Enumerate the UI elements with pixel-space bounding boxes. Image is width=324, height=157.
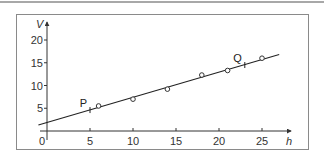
y-axis-label: V	[36, 18, 45, 30]
data-point-circle-marker	[165, 87, 170, 92]
point-label-p: P	[80, 97, 87, 109]
x-tick-label: 20	[213, 135, 225, 147]
data-point-circle-marker	[200, 73, 205, 78]
data-point-circle-marker	[260, 56, 265, 61]
point-annotations: PQ	[80, 52, 245, 113]
fit-line	[38, 55, 279, 126]
x-tick-label: 15	[170, 135, 182, 147]
scatter-chart: 5101520255101520 PQ h V 0	[0, 0, 324, 157]
point-label-q: Q	[233, 52, 242, 64]
y-tick-label: 20	[31, 34, 43, 46]
axes	[40, 22, 291, 140]
tick-marks: 5101520255101520	[31, 34, 268, 147]
x-axis-label: h	[286, 135, 292, 147]
x-tick-label: 5	[87, 135, 93, 147]
best-fit-line	[38, 55, 279, 126]
data-point-circle-marker	[96, 104, 101, 109]
y-tick-label: 10	[31, 80, 43, 92]
y-tick-label: 5	[37, 102, 43, 114]
x-tick-label: 25	[256, 135, 268, 147]
data-point-circle-marker	[225, 68, 230, 73]
x-tick-label: 10	[127, 135, 139, 147]
y-tick-label: 15	[31, 57, 43, 69]
origin-label: 0	[39, 135, 45, 147]
data-point-circle-marker	[131, 97, 136, 102]
